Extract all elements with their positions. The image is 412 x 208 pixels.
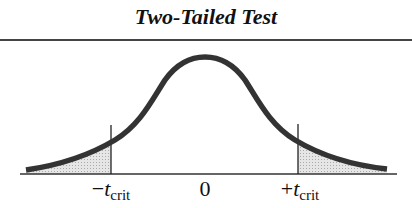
t-distribution-curve (26, 57, 387, 170)
negative-critical-value-label: −tcrit (92, 176, 131, 204)
positive-critical-value-label: +tcrit (281, 176, 320, 204)
center-zero-label: 0 (200, 176, 211, 202)
